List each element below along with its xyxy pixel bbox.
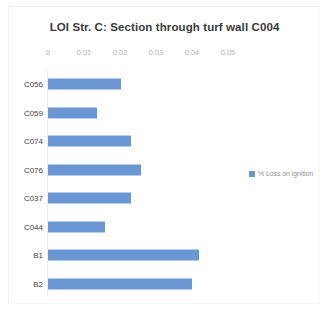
x-axis-tick-label: 0.05 [221,48,236,57]
y-axis-category-label: B1 [33,251,43,260]
legend-swatch-icon [249,171,255,177]
x-axis-tick-label: 0.02 [113,48,128,57]
x-axis-tick-label: 0.01 [77,48,92,57]
bar [48,221,105,232]
bar [48,164,141,175]
y-axis-category-label: C037 [24,194,43,203]
chart-title: LOI Str. C: Section through turf wall C0… [0,21,329,33]
y-axis-category-labels: C056C059C074C076C037C044B1B2 [0,70,43,298]
chart-legend: % Loss on ignition [249,170,313,177]
bar [48,136,131,147]
x-axis-tick-label: 0 [46,48,50,57]
bar [48,79,121,90]
x-axis-tick-labels: 00.010.020.030.040.05 [48,48,265,60]
y-axis-category-label: C076 [24,165,43,174]
y-axis-category-label: C074 [24,137,43,146]
x-axis-tick-label: 0.04 [185,48,200,57]
legend-label: % Loss on ignition [258,170,313,177]
chart-container: LOI Str. C: Section through turf wall C0… [0,0,329,312]
bar [48,250,199,261]
y-axis-category-label: B2 [33,279,43,288]
bar [48,107,97,118]
y-axis-category-label: C056 [24,80,43,89]
y-axis-category-label: C059 [24,108,43,117]
bar [48,193,131,204]
x-axis-tick-label: 0.03 [149,48,164,57]
bar [48,278,192,289]
plot-area [48,70,265,298]
y-axis-category-label: C044 [24,222,43,231]
